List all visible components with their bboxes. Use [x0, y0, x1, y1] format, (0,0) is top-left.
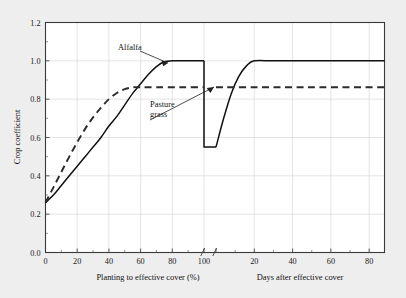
x-tick-label-right: 20	[250, 257, 258, 266]
y-tick-label: 0.0	[30, 249, 40, 258]
x-tick-label-left: 20	[73, 257, 81, 266]
crop-coefficient-figure: Alfalfa Pasture grass Crop coefficient P…	[0, 0, 406, 298]
x-tick-label-left: 60	[137, 257, 145, 266]
x-tick-label-right: 60	[327, 257, 335, 266]
alfalfa-label: Alfalfa	[118, 43, 142, 52]
x-axis-title-right: Days after effective cover	[257, 273, 344, 282]
y-tick-label: 0.8	[30, 95, 40, 104]
y-tick-label: 0.6	[30, 134, 40, 143]
y-tick-label: 0.4	[30, 172, 40, 181]
y-tick-label: 1.2	[30, 19, 40, 28]
x-axis-title-left: Planting to effective cover (%)	[96, 273, 199, 282]
x-tick-label-left: 100	[198, 257, 210, 266]
x-tick-label-left: 40	[105, 257, 113, 266]
x-tick-label-right: 80	[365, 257, 373, 266]
x-tick-label-right: 40	[288, 257, 296, 266]
y-axis-title: Crop coefficient	[13, 109, 22, 164]
chart-svg: Alfalfa Pasture grass Crop coefficient P…	[0, 0, 406, 298]
y-tick-label: 0.2	[30, 210, 40, 219]
x-tick-label-left: 0	[43, 257, 47, 266]
x-tick-label-left: 80	[168, 257, 176, 266]
pasture-label-line2: grass	[150, 110, 167, 119]
pasture-label-line1: Pasture	[150, 100, 175, 109]
y-tick-label: 1.0	[30, 57, 40, 66]
